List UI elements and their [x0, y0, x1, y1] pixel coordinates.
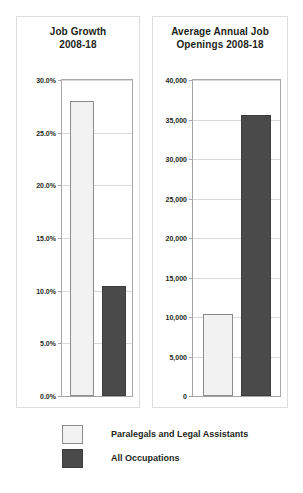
- y-axis-tick-label: 20,000: [166, 235, 187, 242]
- y-axis-tick-label: 15.0%: [36, 235, 56, 242]
- chart-legend: Paralegals and Legal Assistants All Occu…: [62, 422, 292, 470]
- legend-item-all-occupations: All Occupations: [62, 446, 292, 470]
- y-axis-tick-label: 30.0%: [36, 77, 56, 84]
- legend-item-paralegals: Paralegals and Legal Assistants: [62, 422, 292, 446]
- y-axis-tick-mark: [58, 238, 62, 239]
- y-axis-tick-mark: [58, 133, 62, 134]
- y-axis-tick-mark: [189, 396, 193, 397]
- bar-paralegals: [203, 314, 233, 396]
- y-axis-tick-label: 10.0%: [36, 287, 56, 294]
- plot-area-job-growth: 0.0%5.0%10.0%15.0%20.0%25.0%30.0%: [61, 79, 133, 397]
- legend-label-all-occupations: All Occupations: [111, 453, 180, 463]
- y-axis-tick-label: 10,000: [166, 314, 187, 321]
- y-axis-tick-mark: [189, 278, 193, 279]
- bar-paralegals: [70, 101, 94, 396]
- y-axis-tick-mark: [189, 199, 193, 200]
- gridline: [193, 80, 280, 81]
- chart-title-job-growth: Job Growth 2008-18: [17, 25, 139, 51]
- y-axis-tick-mark: [58, 396, 62, 397]
- y-axis-tick-mark: [189, 159, 193, 160]
- y-axis-tick-mark: [58, 185, 62, 186]
- y-axis-tick-mark: [189, 80, 193, 81]
- y-axis-tick-label: 25,000: [166, 195, 187, 202]
- y-axis-tick-label: 20.0%: [36, 182, 56, 189]
- chart-title-line-2: 2008-18: [17, 38, 139, 51]
- y-axis-tick-label: 40,000: [166, 77, 187, 84]
- bar-all-occupations: [241, 115, 271, 396]
- chart-title-line-1: Average Annual Job: [153, 25, 287, 38]
- chart-figure: Job Growth 2008-18 0.0%5.0%10.0%15.0%20.…: [0, 0, 303, 493]
- y-axis-tick-mark: [58, 80, 62, 81]
- chart-panel-job-openings: Average Annual Job Openings 2008-18 05,0…: [152, 16, 288, 408]
- legend-swatch-paralegals-icon: [62, 425, 83, 444]
- chart-title-job-openings: Average Annual Job Openings 2008-18: [153, 25, 287, 51]
- chart-title-line-1: Job Growth: [17, 25, 139, 38]
- y-axis-tick-mark: [189, 238, 193, 239]
- y-axis-tick-label: 25.0%: [36, 129, 56, 136]
- y-axis-tick-mark: [58, 343, 62, 344]
- y-axis-tick-label: 0: [183, 393, 187, 400]
- y-axis-tick-label: 0.0%: [40, 393, 56, 400]
- y-axis-tick-mark: [189, 120, 193, 121]
- y-axis-tick-label: 5.0%: [40, 340, 56, 347]
- legend-label-paralegals: Paralegals and Legal Assistants: [111, 429, 248, 439]
- y-axis-tick-mark: [189, 357, 193, 358]
- y-axis-tick-label: 15,000: [166, 274, 187, 281]
- y-axis-tick-label: 35,000: [166, 116, 187, 123]
- y-axis-tick-label: 5,000: [169, 353, 187, 360]
- bar-all-occupations: [102, 286, 126, 396]
- chart-title-line-2: Openings 2008-18: [153, 38, 287, 51]
- legend-swatch-all-occupations-icon: [62, 449, 83, 468]
- plot-area-job-openings: 05,00010,00015,00020,00025,00030,00035,0…: [192, 79, 281, 397]
- y-axis-tick-mark: [189, 317, 193, 318]
- y-axis-tick-mark: [58, 291, 62, 292]
- y-axis-tick-label: 30,000: [166, 156, 187, 163]
- chart-panel-job-growth: Job Growth 2008-18 0.0%5.0%10.0%15.0%20.…: [16, 16, 140, 408]
- gridline: [62, 80, 132, 81]
